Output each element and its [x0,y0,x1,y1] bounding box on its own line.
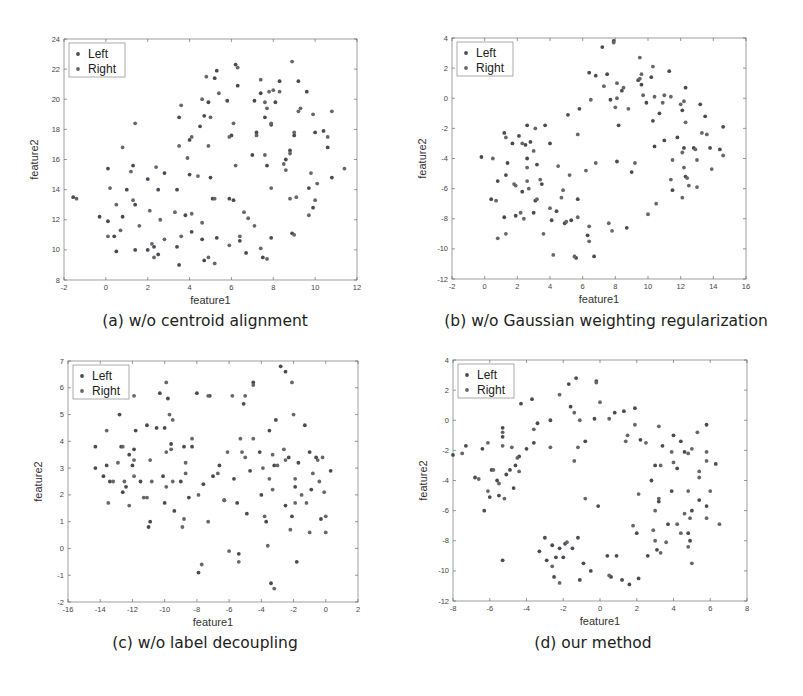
data-point [180,525,184,529]
data-point [688,539,692,543]
data-point [697,498,701,502]
data-point [653,539,657,543]
data-point [540,182,544,186]
data-point [532,211,536,215]
data-point [682,166,686,170]
data-point [496,179,500,183]
data-point [714,462,718,466]
x-tick-label: 4 [671,604,675,613]
data-point [227,549,231,553]
data-point [552,575,556,579]
y-tick-label: 0 [60,544,64,553]
data-point [460,451,464,455]
data-point [213,197,217,201]
data-point [158,218,162,222]
data-point [672,461,676,465]
data-point [237,552,241,556]
data-point [243,456,247,460]
data-point [132,474,136,478]
data-point [613,411,617,415]
data-point [227,197,231,201]
data-point [592,255,596,259]
x-tick-label: 0 [324,605,328,614]
legend-label-right: Right [476,61,505,75]
data-point [190,230,194,234]
legend-label-right: Right [88,62,117,76]
legend-marker-right [76,67,80,71]
data-point [183,213,187,217]
data-point [672,433,676,437]
data-point [204,75,208,79]
data-point [576,445,580,449]
x-tick-label: 12 [676,282,684,291]
x-tick-label: -4 [258,605,265,614]
y-tick-label: 7 [60,357,64,366]
y-tick-label: 6 [60,383,64,392]
data-point [206,520,210,524]
data-point [682,146,686,150]
y-tick-label: 2 [445,386,449,395]
data-point [164,381,168,385]
data-point [698,102,702,106]
data-point [190,437,194,441]
data-point [525,166,529,170]
data-point [686,489,690,493]
x-tick-label: -8 [450,604,457,613]
data-point [263,115,267,119]
data-point [134,429,138,433]
data-point [207,256,211,260]
data-point [267,477,271,481]
data-point [250,153,254,157]
data-point [173,210,177,214]
data-point [686,545,690,549]
x-tick-label: -2 [560,604,567,613]
y-axis-label: feature2 [32,461,44,501]
data-point [517,134,521,138]
data-point [508,468,512,472]
y-tick-label: 4 [444,34,448,43]
data-point [703,114,707,118]
data-point [578,107,582,111]
data-point [501,558,505,562]
data-point [622,86,626,90]
y-tick-label: 3 [60,464,64,473]
x-tick-label: 10 [311,283,319,292]
y-tick-label: 1 [60,517,64,526]
data-point [641,93,645,97]
data-point [240,450,244,454]
data-point [708,489,712,493]
data-point [330,176,334,180]
data-point [243,394,247,398]
legend-marker-left [465,373,469,377]
data-point [121,445,125,449]
data-point [269,236,273,240]
data-point [690,561,694,565]
data-point [536,421,540,425]
data-point [522,217,526,221]
data-point [671,188,675,192]
data-point [133,121,137,125]
legend-marker-right [465,388,469,392]
y-tick-label: 8 [56,276,60,285]
data-point [561,188,565,192]
data-point [525,179,529,183]
data-point [633,161,637,165]
caption-a: (a) w/o centroid alignment [102,312,308,330]
data-point [269,121,273,125]
data-point [573,255,577,259]
data-point [626,433,630,437]
data-point [649,75,653,79]
data-point [253,224,257,228]
data-point [127,504,131,508]
data-point [686,531,690,535]
data-point [542,232,546,236]
data-point [615,81,619,85]
data-point [190,212,194,216]
data-point [635,531,639,535]
data-point [705,516,709,520]
data-point [293,501,297,505]
data-point [163,237,167,241]
data-point [114,203,118,207]
data-point [661,444,665,448]
legend: LeftRight [457,42,513,76]
